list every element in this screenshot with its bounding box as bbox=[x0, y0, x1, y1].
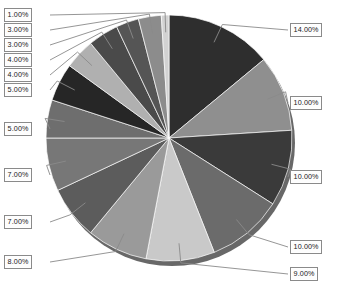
pie-slice-label: 14.00% bbox=[290, 23, 322, 37]
pie-slice-label: 4.00% bbox=[4, 68, 32, 82]
pie-chart: 14.00%10.00%10.00%10.00%9.00%8.00%7.00%7… bbox=[0, 0, 338, 288]
pie-slice-label: 3.00% bbox=[4, 38, 32, 52]
pie-slice-label: 7.00% bbox=[4, 168, 32, 182]
pie-slice-label: 4.00% bbox=[4, 53, 32, 67]
pie-slice-label: 10.00% bbox=[290, 240, 322, 254]
pie-slice-label: 10.00% bbox=[290, 170, 322, 184]
pie-slice-label: 5.00% bbox=[4, 83, 32, 97]
pie-chart-canvas bbox=[0, 0, 338, 288]
pie-slice-label: 8.00% bbox=[4, 255, 32, 269]
pie-slice-label: 5.00% bbox=[4, 122, 32, 136]
pie-slice-label: 3.00% bbox=[4, 23, 32, 37]
pie-slice-label: 1.00% bbox=[4, 8, 32, 22]
pie-slice-label: 7.00% bbox=[4, 215, 32, 229]
pie-slice-label: 9.00% bbox=[290, 267, 318, 281]
pie-slice-label: 10.00% bbox=[290, 96, 322, 110]
